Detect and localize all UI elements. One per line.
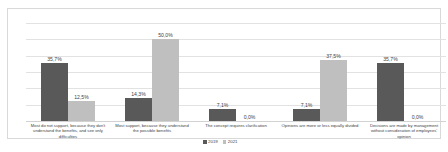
bar-slot: 0,0% [236,23,263,121]
legend-swatch-icon [223,140,227,144]
axis-baseline [26,121,446,122]
bar-slot: 7,1% [293,23,320,121]
bar-2021-1[interactable]: 50,0% [152,39,179,121]
bar-value-label: 0,0% [412,114,424,120]
bar-value-label: 0,0% [244,114,256,120]
bar-slot: 37,5% [320,23,347,121]
bar-slot: 50,0% [152,23,179,121]
category-axis: Most do not support, because they don't … [26,123,446,139]
plot-area: 35,7%12,5%14,3%50,0%7,1%0,0%7,1%37,5%35,… [26,23,446,121]
bar-2019-4[interactable]: 35,7% [377,63,404,121]
bar-chart-figure: 35,7%12,5%14,3%50,0%7,1%0,0%7,1%37,5%35,… [0,0,448,152]
category-label: Most do not support, because they don't … [26,123,110,139]
bar-2021-3[interactable]: 37,5% [320,60,347,121]
bar-slot: 12,5% [68,23,95,121]
bar-value-label: 35,7% [47,56,61,62]
bar-group: 14,3%50,0% [110,23,194,121]
bar-2019-2[interactable]: 7,1% [209,109,236,121]
legend-item-2021[interactable]: 2021 [223,139,238,145]
legend-item-2019[interactable]: 2019 [203,139,218,145]
bar-2019-1[interactable]: 14,3% [125,98,152,121]
bar-slot: 7,1% [209,23,236,121]
bar-group: 35,7%12,5% [26,23,110,121]
category-label: Most support, because they understand th… [110,123,194,139]
bar-slot: 0,0% [404,23,431,121]
bar-slot: 14,3% [125,23,152,121]
bar-group: 7,1%37,5% [278,23,362,121]
bar-value-label: 35,7% [383,56,397,62]
bar-value-label: 12,5% [74,94,88,100]
bar-2019-3[interactable]: 7,1% [293,109,320,121]
category-label: Decisions are made by management without… [362,123,446,139]
category-label: The concept requires clarification [194,123,278,139]
bar-value-label: 50,0% [158,32,172,38]
legend-swatch-icon [203,140,207,144]
bars-layer: 35,7%12,5%14,3%50,0%7,1%0,0%7,1%37,5%35,… [26,23,446,121]
bar-value-label: 14,3% [131,91,145,97]
bar-group: 35,7%0,0% [362,23,446,121]
bar-2019-0[interactable]: 35,7% [41,63,68,121]
bar-slot: 35,7% [377,23,404,121]
legend-label: 2019 [208,139,218,145]
chart-frame: 35,7%12,5%14,3%50,0%7,1%0,0%7,1%37,5%35,… [7,8,441,139]
legend-label: 2021 [228,139,238,145]
bar-value-label: 7,1% [301,102,313,108]
bar-slot: 35,7% [41,23,68,121]
bar-value-label: 7,1% [217,102,229,108]
chart-legend: 20192021 [203,139,238,145]
bar-2021-0[interactable]: 12,5% [68,101,95,121]
bar-value-label: 37,5% [326,53,340,59]
category-label: Opinions are more or less equally divide… [278,123,362,139]
bar-group: 7,1%0,0% [194,23,278,121]
